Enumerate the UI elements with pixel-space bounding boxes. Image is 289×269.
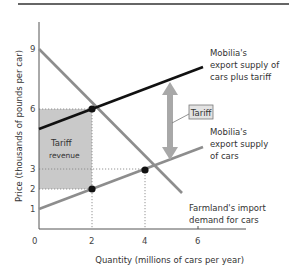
y-tick-label-2: 2 <box>30 184 35 194</box>
supply-label-3: of cars <box>210 151 239 161</box>
x-tick-label-2: 2 <box>89 236 94 246</box>
tariff-box-label: Tariff <box>190 108 213 118</box>
supply-tariff-label-3: cars plus tariff <box>210 72 272 82</box>
chart: Tariff Tariff revenue Mobilia's export s… <box>0 0 289 269</box>
y-tick-label-1: 1 <box>30 204 35 214</box>
tariff-revenue-area <box>39 109 92 189</box>
supply-tariff-label-2: export supply of <box>210 60 280 70</box>
demand-label-1: Farmland's import <box>189 203 266 213</box>
demand-label-2: demand for cars <box>189 215 259 225</box>
x-tick-label-4: 4 <box>142 236 147 246</box>
tariff-revenue-label-2: revenue <box>49 151 80 160</box>
point-4-3 <box>141 166 148 173</box>
y-tick-label-3: 3 <box>30 164 35 174</box>
x-axis-label: Quantity (millions of cars per year) <box>95 255 244 265</box>
y-tick-label-6: 6 <box>30 104 35 114</box>
x-tick-label-6: 6 <box>195 236 200 246</box>
tariff-leader <box>172 114 189 123</box>
point-2-2 <box>88 185 95 192</box>
y-tick-label-9: 9 <box>30 44 35 54</box>
point-2-6 <box>88 105 95 112</box>
tariff-revenue-label-1: Tariff <box>50 138 73 148</box>
x-tick-label-0: 0 <box>32 236 37 246</box>
y-axis-label: Price (thousands of pounds per car) <box>14 50 24 202</box>
supply-label-1: Mobilia's <box>210 127 248 137</box>
supply-label-2: export supply <box>210 139 268 149</box>
supply-tariff-label-1: Mobilia's <box>210 48 248 58</box>
